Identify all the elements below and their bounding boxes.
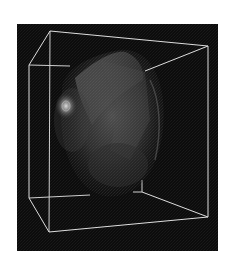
volume-render-viewport bbox=[17, 24, 218, 251]
figure-canvas: 3D volume rendering inside wireframe bou… bbox=[0, 0, 229, 271]
volume-render-svg bbox=[17, 24, 218, 251]
